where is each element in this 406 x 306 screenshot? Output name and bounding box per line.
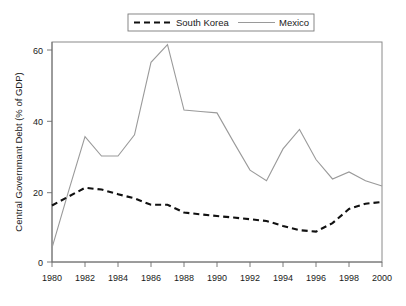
x-tick-label-1984: 1984 [108,273,128,283]
chart-background [0,0,406,306]
legend-label-mexico: Mexico [279,17,309,28]
y-tick-label-20: 20 [33,188,43,198]
x-tick-label-1982: 1982 [75,273,95,283]
x-tick-label-1998: 1998 [339,273,359,283]
x-tick-label-1992: 1992 [240,273,260,283]
y-tick-label-40: 40 [33,117,43,127]
x-tick-label-1990: 1990 [207,273,227,283]
x-tick-label-1996: 1996 [306,273,326,283]
y-tick-label-60: 60 [33,46,43,56]
x-tick-label-1994: 1994 [273,273,293,283]
x-tick-label-1986: 1986 [141,273,161,283]
legend-label-south-korea: South Korea [176,17,230,28]
chart-container: South Korea Mexico 0 20 40 60 Central Go… [0,0,406,306]
x-tick-label-2000: 2000 [372,273,392,283]
x-tick-label-1980: 1980 [42,273,62,283]
line-chart: South Korea Mexico 0 20 40 60 Central Go… [0,0,406,306]
x-tick-label-1988: 1988 [174,273,194,283]
y-axis-title: Central Governmant Debt (% of GDP) [13,72,24,231]
y-tick-label-0: 0 [38,258,43,268]
